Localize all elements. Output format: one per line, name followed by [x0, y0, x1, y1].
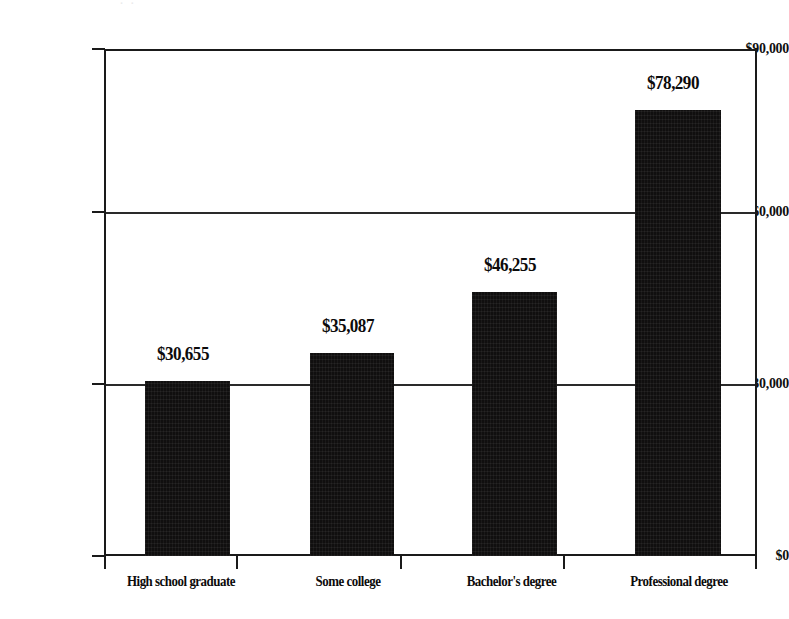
bar-value-some-college: $35,087 — [267, 315, 429, 337]
bar-professional-degree — [635, 110, 721, 556]
bar-some-college — [310, 353, 394, 556]
x-axis-label-bachelors-degree: Bachelor's degree — [419, 573, 604, 590]
x-axis-tick-start — [104, 556, 106, 569]
x-axis-tick-3 — [563, 556, 565, 569]
x-axis-tick-1 — [236, 556, 238, 569]
plot-area — [104, 49, 757, 556]
chart-page: · · $90,000 $60,000 $30,000 $0 $30,655 $… — [0, 0, 789, 619]
x-axis-label-high-school-graduate: High school graduate — [87, 573, 274, 590]
bar-value-bachelors-degree: $46,255 — [429, 254, 591, 276]
clipped-title-remnant: · · — [120, 0, 600, 7]
bar-bachelors-degree — [472, 292, 557, 556]
bar-high-school-graduate — [145, 381, 230, 556]
bar-value-high-school-graduate: $30,655 — [102, 343, 264, 365]
x-axis-label-professional-degree: Professional degree — [585, 573, 772, 590]
bar-value-professional-degree: $78,290 — [592, 72, 754, 94]
x-axis-tick-2 — [400, 556, 402, 569]
x-axis-label-some-college: Some college — [262, 573, 434, 590]
x-axis-tick-end — [755, 556, 757, 569]
